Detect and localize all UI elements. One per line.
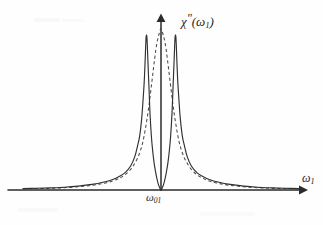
tick-label-omega: ω xyxy=(146,191,154,203)
figure-canvas: χ″(ω1) ω1 ω01 xyxy=(0,0,323,225)
y-axis-arrowhead xyxy=(157,14,166,23)
lineshape-plot xyxy=(0,0,323,225)
x-axis-label-subscript: 1 xyxy=(310,177,314,186)
x-axis-tick-label-resonance: ω01 xyxy=(146,192,161,205)
y-axis-label-omega: ω xyxy=(196,14,205,29)
y-axis-label-paren-close: ) xyxy=(210,14,214,29)
x-axis-arrowhead xyxy=(299,186,308,195)
x-axis-label: ω1 xyxy=(302,172,315,186)
y-axis-label: χ″(ω1) xyxy=(181,12,214,30)
tick-label-subscript: 01 xyxy=(154,196,161,205)
